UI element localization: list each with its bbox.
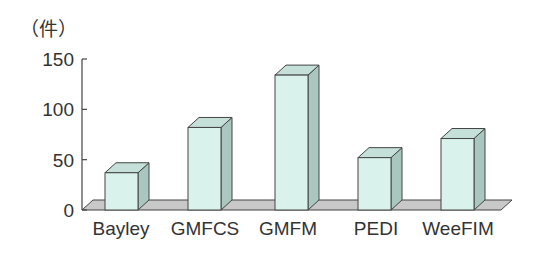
bar-pedi: [358, 148, 402, 210]
x-label-bayley: Bayley: [76, 218, 166, 240]
bar-bayley: [105, 163, 149, 210]
bar-gmfm: [275, 65, 319, 210]
bar-gmfcs: [188, 117, 232, 210]
bar-chart: [0, 0, 543, 255]
bar-weefim: [441, 129, 485, 210]
x-label-weefim: WeeFIM: [413, 218, 503, 240]
x-label-gmfm: GMFM: [243, 218, 333, 240]
x-label-pedi: PEDI: [331, 218, 421, 240]
x-label-gmfcs: GMFCS: [160, 218, 250, 240]
